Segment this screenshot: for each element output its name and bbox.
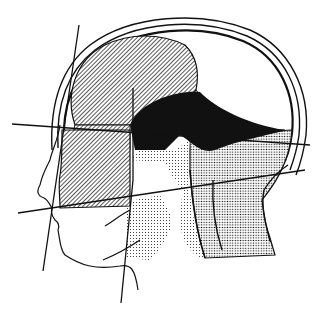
head-diagram [0, 0, 318, 311]
face-block-region [59, 130, 130, 208]
